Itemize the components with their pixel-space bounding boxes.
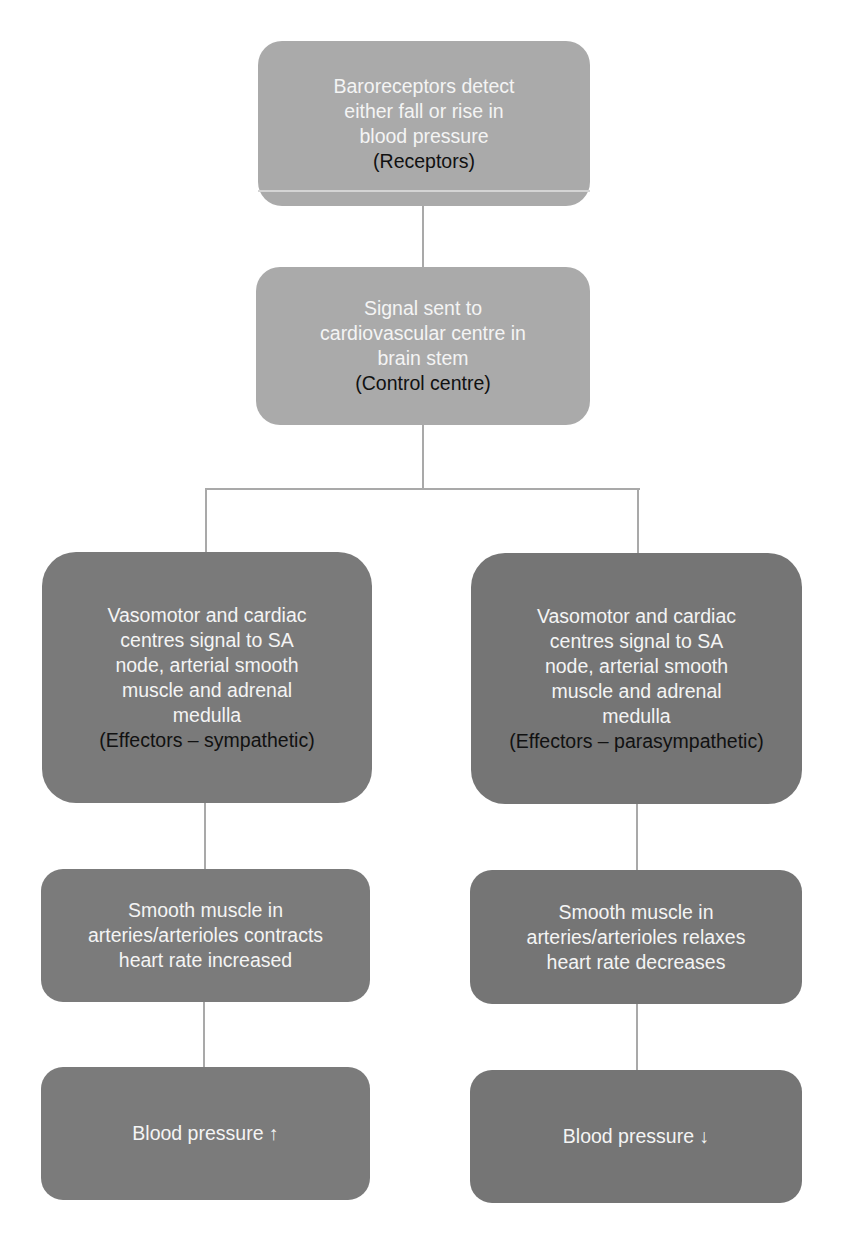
response-sympathetic-line-2: arteries/arterioles contracts — [88, 923, 323, 948]
sympathetic-text-line-5: medulla — [173, 703, 241, 728]
control-text-line-2: cardiovascular centre in — [320, 321, 526, 346]
control-text-line-1: Signal sent to — [364, 296, 482, 321]
receptors-role-label: (Receptors) — [373, 149, 475, 174]
sympathetic-text-line-1: Vasomotor and cardiac — [107, 603, 306, 628]
connector-sympathetic-to-response — [204, 803, 206, 870]
receptors-divider — [258, 190, 590, 192]
receptors-text-line-2: either fall or rise in — [344, 99, 503, 124]
outcome-parasympathetic-label: Blood pressure ↓ — [563, 1124, 709, 1149]
sympathetic-role-label: (Effectors – sympathetic) — [99, 728, 314, 753]
outcome-sympathetic-label: Blood pressure ↑ — [132, 1121, 278, 1146]
connector-branch-horizontal — [205, 488, 640, 490]
effectors-sympathetic-node: Vasomotor and cardiac centres signal to … — [42, 552, 372, 803]
response-parasympathetic-line-1: Smooth muscle in — [559, 900, 714, 925]
outcome-sympathetic-node: Blood pressure ↑ — [41, 1067, 370, 1200]
outcome-parasympathetic-node: Blood pressure ↓ — [470, 1070, 802, 1203]
sympathetic-text-line-4: muscle and adrenal — [122, 678, 292, 703]
control-text-line-3: brain stem — [377, 346, 468, 371]
receptors-node: Baroreceptors detect either fall or rise… — [258, 41, 590, 206]
response-parasympathetic-line-2: arteries/arterioles relaxes — [527, 925, 746, 950]
effectors-parasympathetic-node: Vasomotor and cardiac centres signal to … — [471, 553, 802, 804]
connector-receptors-to-control — [422, 206, 424, 267]
sympathetic-text-line-3: node, arterial smooth — [115, 653, 298, 678]
parasympathetic-text-line-3: node, arterial smooth — [545, 654, 728, 679]
connector-control-down — [422, 425, 424, 490]
response-sympathetic-line-3: heart rate increased — [119, 948, 292, 973]
response-parasympathetic-line-3: heart rate decreases — [547, 950, 726, 975]
parasympathetic-role-label: (Effectors – parasympathetic) — [509, 729, 763, 754]
connector-branch-right — [637, 488, 639, 554]
connector-response-to-outcome-left — [203, 1002, 205, 1068]
parasympathetic-text-line-2: centres signal to SA — [550, 629, 723, 654]
parasympathetic-text-line-4: muscle and adrenal — [551, 679, 721, 704]
response-sympathetic-node: Smooth muscle in arteries/arterioles con… — [41, 869, 370, 1002]
receptors-text-line-1: Baroreceptors detect — [333, 74, 514, 99]
parasympathetic-text-line-5: medulla — [602, 704, 670, 729]
connector-response-to-outcome-right — [636, 1004, 638, 1071]
parasympathetic-text-line-1: Vasomotor and cardiac — [537, 604, 736, 629]
response-parasympathetic-node: Smooth muscle in arteries/arterioles rel… — [470, 870, 802, 1004]
connector-parasympathetic-to-response — [636, 804, 638, 871]
connector-branch-left — [205, 488, 207, 553]
receptors-text-line-3: blood pressure — [360, 124, 489, 149]
sympathetic-text-line-2: centres signal to SA — [120, 628, 293, 653]
response-sympathetic-line-1: Smooth muscle in — [128, 898, 283, 923]
control-centre-node: Signal sent to cardiovascular centre in … — [256, 267, 590, 425]
control-role-label: (Control centre) — [355, 371, 490, 396]
